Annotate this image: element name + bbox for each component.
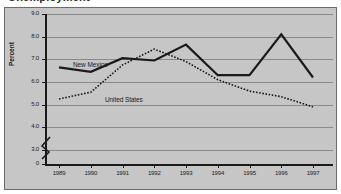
y-tick-label: 4.0 [13,123,39,129]
x-tick-label: 1995 [234,170,266,176]
x-tick-label: 1990 [75,170,107,176]
y-tick-label: 8.0 [13,33,39,39]
series-label-new-mexico: New Mexico [73,61,107,68]
data-series-lines [45,14,333,165]
x-tick-label: 1996 [265,170,297,176]
y-tick-label: 9.0 [13,10,39,16]
x-tick-mark [313,165,314,168]
x-tick-label: 1991 [107,170,139,176]
x-tick-mark [218,165,219,168]
y-tick-label: 3.0 [13,146,39,152]
x-tick-label: 1992 [138,170,170,176]
x-tick-mark [154,165,155,168]
y-tick-label: 6.0 [13,78,39,84]
y-axis-label: Percent [8,42,15,66]
x-tick-mark [91,165,92,168]
x-tick-mark [186,165,187,168]
x-tick-mark [281,165,282,168]
x-tick-label: 1989 [43,170,75,176]
x-tick-mark [123,165,124,168]
x-tick-label: 1997 [297,170,329,176]
y-tick-label: 7.0 [13,55,39,61]
y-tick-label: 5.0 [13,101,39,107]
x-tick-mark [250,165,251,168]
series-label-united-states: United States [105,96,143,103]
series-line-new-mexico [59,34,313,77]
x-tick-mark [59,165,60,168]
series-line-united-states [59,49,313,107]
x-tick-label: 1993 [170,170,202,176]
y-tick-label: 0 [13,160,39,166]
plot-area: 9.08.07.06.05.04.03.00 Percent 198919901… [45,14,333,165]
chart-canvas: 9.08.07.06.05.04.03.00 Percent 198919901… [0,0,341,194]
x-tick-label: 1994 [202,170,234,176]
